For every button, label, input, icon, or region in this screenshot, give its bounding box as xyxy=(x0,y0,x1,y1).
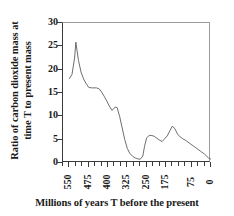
x-axis-minor-tick-mark xyxy=(75,162,76,166)
x-axis-minor-tick-mark xyxy=(171,162,172,166)
plot-area xyxy=(62,22,210,162)
x-axis-minor-tick-mark xyxy=(159,162,160,166)
x-axis-minor-tick-mark xyxy=(62,162,63,166)
chart-figure: Ratio of carbon dioxide mass at time T t… xyxy=(0,0,234,216)
x-axis-minor-tick-mark xyxy=(178,162,179,166)
y-axis-tick-label: 10 xyxy=(32,110,58,120)
y-axis-tick-label: 0 xyxy=(32,157,58,167)
x-axis-tick-label: 325 xyxy=(119,169,133,195)
x-axis-minor-tick-mark xyxy=(120,162,121,166)
x-axis-minor-tick-mark xyxy=(81,162,82,166)
y-axis-tick-label: 25 xyxy=(32,40,58,50)
x-axis-tick-label: 550 xyxy=(61,169,75,195)
series-co2-mass-ratio-line xyxy=(69,42,211,159)
x-axis-tick-label: 0 xyxy=(203,169,217,195)
x-axis-minor-tick-mark xyxy=(133,162,134,166)
x-axis-minor-tick-mark xyxy=(204,162,205,166)
x-axis-minor-tick-mark xyxy=(184,162,185,166)
x-axis-minor-tick-mark xyxy=(197,162,198,166)
x-axis-tick-label: 175 xyxy=(158,169,172,195)
x-axis-minor-tick-mark xyxy=(94,162,95,166)
x-axis-tick-label: 400 xyxy=(100,169,114,195)
y-axis-tick-label: 5 xyxy=(32,134,58,144)
x-axis-title: Millions of years T before the present xyxy=(0,197,234,209)
y-axis-title-line-1: Ratio of carbon dioxide mass at xyxy=(9,21,22,159)
x-axis-minor-tick-mark xyxy=(101,162,102,166)
x-axis-tick-label: 75 xyxy=(184,169,198,195)
data-line-chart xyxy=(63,23,211,163)
x-axis-tick-label: 475 xyxy=(81,169,95,195)
x-axis-minor-tick-mark xyxy=(152,162,153,166)
x-axis-minor-tick-mark xyxy=(139,162,140,166)
y-axis-tick-label: 30 xyxy=(32,17,58,27)
x-axis-minor-tick-mark xyxy=(113,162,114,166)
y-axis-tick-label: 20 xyxy=(32,64,58,74)
x-axis-tick-label: 250 xyxy=(139,169,153,195)
y-axis-tick-label: 15 xyxy=(32,87,58,97)
